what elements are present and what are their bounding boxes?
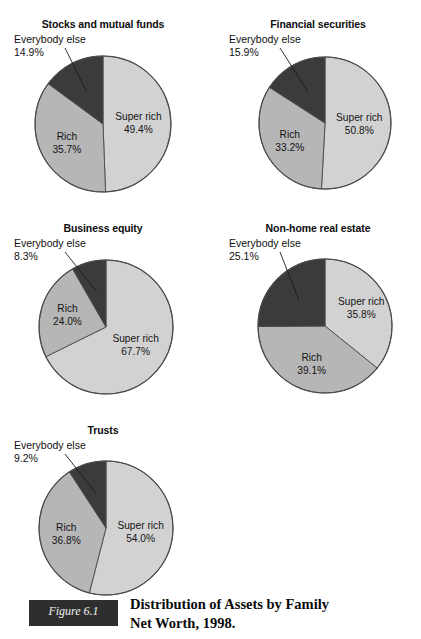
pie-slice-label-value: 54.0% <box>126 533 155 544</box>
pie-slice-label-value: 49.4% <box>124 124 153 135</box>
pie-slice <box>258 259 325 326</box>
pie-slice-label-value: 24.0% <box>53 316 82 327</box>
pie-chart-svg: Super rich35.8%Rich39.1% <box>228 222 408 404</box>
pie-slice-label-value: 33.2% <box>275 142 304 153</box>
pie-slice <box>321 57 390 189</box>
pie-slice-label-name: Rich <box>57 131 77 142</box>
pie-chart-svg: Super rich49.4%Rich35.7% <box>13 18 193 200</box>
figure-page: Stocks and mutual funds Everybody else 1… <box>0 0 421 639</box>
pie-slice-label-name: Super rich <box>117 520 163 531</box>
pie-slice-label-value: 36.8% <box>52 535 81 546</box>
pie-slice-label-name: Rich <box>56 522 76 533</box>
pie-slice-label-name: Rich <box>57 303 77 314</box>
pie-chart-svg: Super rich50.8%Rich33.2% <box>228 18 408 200</box>
pie-panel-financial-securities: Financial securities Everybody else 15.9… <box>228 18 408 200</box>
figure-caption-line-2: Net Worth, 1998. <box>130 614 329 633</box>
figure-caption-line-1: Distribution of Assets by Family <box>130 595 329 614</box>
pie-slice-label-value: 35.8% <box>347 309 376 320</box>
pie-slice-label-value: 50.8% <box>345 125 374 136</box>
figure-caption: Figure 6.1 Distribution of Assets by Fam… <box>29 598 399 639</box>
pie-slice-label-value: 67.7% <box>121 346 150 357</box>
pie-panel-trusts: Trusts Everybody else 9.2% Super rich54.… <box>13 424 193 606</box>
pie-chart-svg: Super rich67.7%Rich24.0% <box>13 222 193 404</box>
pie-panel-non-home-real-estate: Non-home real estate Everybody else 25.1… <box>228 222 408 404</box>
pie-slice-label-name: Super rich <box>338 296 384 307</box>
pie-slice-label-name: Super rich <box>112 333 158 344</box>
pie-slice-label-name: Super rich <box>115 111 161 122</box>
pie-slice-label-value: 39.1% <box>297 365 326 376</box>
pie-panel-stocks-and-mutual-funds: Stocks and mutual funds Everybody else 1… <box>13 18 193 200</box>
pie-slice-label-name: Rich <box>280 129 300 140</box>
pie-slice-label-name: Super rich <box>336 112 382 123</box>
pie-panel-business-equity: Business equity Everybody else 8.3% Supe… <box>13 222 193 404</box>
pie-chart-svg: Super rich54.0%Rich36.8% <box>13 424 193 606</box>
pie-slice-label-name: Rich <box>302 352 322 363</box>
figure-caption-text: Distribution of Assets by Family Net Wor… <box>130 595 329 633</box>
pie-slice-label-value: 35.7% <box>52 144 81 155</box>
figure-tag-label: Figure 6.1 <box>29 598 118 624</box>
